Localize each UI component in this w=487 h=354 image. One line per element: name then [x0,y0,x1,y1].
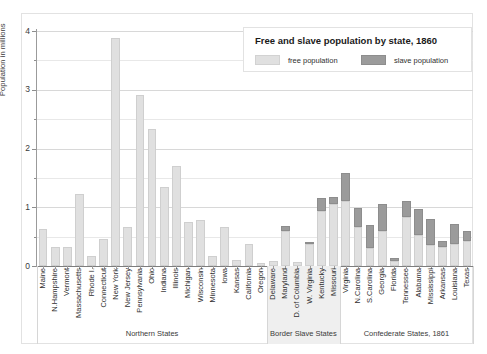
x-tick-label: Georgia [377,268,387,324]
y-tick-label: 2 [10,144,30,152]
bar-segment-free [75,194,84,266]
x-tick-label: Virginia [341,268,351,324]
y-axis-label: Population in millions [0,0,7,96]
bar-segment-free [329,204,338,266]
x-tick-label-text: Minnesota [209,268,217,303]
x-tick-label-text: Kentucky [318,268,326,299]
x-tick-label-text: Mississippi [427,268,435,304]
bar-column[interactable] [196,31,205,266]
x-tick-label: Rhode I. [87,268,97,324]
bar-column[interactable] [136,31,145,266]
bar-segment-slave [378,204,387,231]
bar-segment-free [136,95,145,266]
legend-label-slave: slave population [394,56,448,65]
bar-segment-free [402,217,411,266]
bar-segment-slave [341,173,350,202]
legend-swatch-free-icon [255,55,280,65]
bar-segment-free [63,247,72,266]
bar-segment-free [450,244,459,266]
bar-column[interactable] [51,31,60,266]
bar-column[interactable] [39,31,48,266]
x-tick-label: D. of Columbia [292,268,302,324]
x-tick-label: W. Virginia [305,268,315,324]
x-tick-label: Minnesota [208,268,218,324]
x-tick-label: Pennsylvania [135,268,145,324]
x-tick-label: Mississippi [426,268,436,324]
x-tick-label-text: W. Virginia [306,268,314,304]
bar-column[interactable] [148,31,157,266]
x-tick-label: Louisiana [450,268,460,324]
group-band-label: Confederate States, 1861 [340,329,473,338]
bar-column[interactable] [232,31,241,266]
y-axis-line [36,29,37,267]
bar-column[interactable] [208,31,217,266]
bar-segment-slave [390,258,399,262]
x-tick-label-text: D. of Columbia [293,268,301,318]
x-tick-label: Indiana [159,268,169,324]
x-tick-label: Tennessee [401,268,411,324]
x-tick-label-text: California [245,268,253,300]
x-tick-label: Michigan [183,268,193,324]
bar-segment-free [99,239,108,266]
bar-segment-slave [463,231,472,242]
bar-segment-free [87,256,96,266]
bar-segment-free [208,256,217,266]
bar-segment-free [184,222,193,266]
x-tick-label: Maine [38,268,48,324]
bar-segment-free [438,247,447,266]
x-tick-label-text: S.Carolina [366,268,374,303]
x-tick-label-text: Missouri [330,268,338,296]
bar-column[interactable] [99,31,108,266]
x-tick-label: Illinois [171,268,181,324]
x-tick-label: Missouri [329,268,339,324]
x-tick-label-text: Michigan [184,268,192,298]
bar-segment-free [414,235,423,266]
x-tick-label: Kentucky [317,268,327,324]
bar-column[interactable] [184,31,193,266]
chart-figure: Population in millions 01234 Northern St… [0,0,487,354]
x-tick-label-text: Iowa [221,268,229,284]
x-tick-label-text: Arkansas [439,268,447,299]
x-tick-label-text: Alabama [415,268,423,298]
bar-segment-free [196,220,205,266]
bar-column[interactable] [172,31,181,266]
bar-segment-free [51,247,60,266]
x-tick-label-text: Georgia [378,268,386,295]
bar-segment-free [148,129,157,266]
bar-column[interactable] [220,31,229,266]
x-tick-label: S.Carolina [365,268,375,324]
x-tick-label-text: Indiana [160,268,168,293]
x-tick-label-text: Rhode I. [88,268,96,296]
bar-segment-slave [450,224,459,244]
bar-segment-slave [414,209,423,235]
x-tick-label: Vermont [62,268,72,324]
bar-column[interactable] [111,31,120,266]
x-tick-label-text: N.Hampshire [51,268,59,312]
x-tick-label-text: Delaware [269,268,277,300]
bar-column[interactable] [87,31,96,266]
y-tick-label: 3 [10,85,30,93]
bar-column[interactable] [75,31,84,266]
x-tick-label-text: Ohio [148,268,156,284]
bar-segment-free [341,201,350,266]
bar-segment-free [366,248,375,266]
bar-column[interactable] [63,31,72,266]
bar-column[interactable] [160,31,169,266]
x-tick-label-text: Oregon [257,268,265,293]
x-tick-label: Texas [462,268,472,324]
bar-segment-free [305,244,314,266]
group-band-separator [473,266,474,344]
bar-segment-free [220,227,229,266]
bar-segment-free [111,38,120,266]
x-tick-label-text: Kansas [233,268,241,293]
x-tick-label-text: Louisiana [451,268,459,300]
x-tick-label-text: Connecticut [100,268,108,308]
bar-segment-free [281,231,290,266]
x-tick-label: California [244,268,254,324]
x-tick-label-text: New York [112,268,120,300]
bar-column[interactable] [123,31,132,266]
x-tick-label-text: Vermont [63,268,71,296]
bar-segment-slave [402,201,411,217]
bar-segment-slave [305,242,314,244]
x-tick-label: New Jersey [123,268,133,324]
